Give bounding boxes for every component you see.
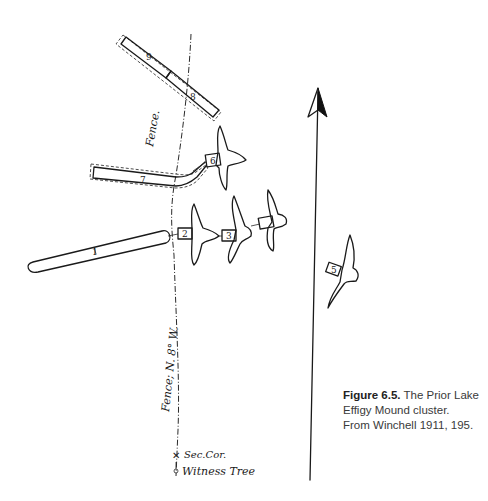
mound-label-7: 7 <box>140 175 146 185</box>
witness-tree-icon <box>174 469 178 473</box>
figure-caption: Figure 6.5. The Prior Lake Effigy Mound … <box>343 388 483 433</box>
section-corner-marker: ✕ Sec.Cor. <box>172 449 226 461</box>
mound-7-linear: 7 <box>90 162 208 188</box>
mound-label-8: 8 <box>190 92 196 102</box>
witness-tree-label: Witness Tree <box>182 465 256 478</box>
mound-label-3: 3 <box>226 231 232 241</box>
fence-label-top: Fence. <box>143 109 162 148</box>
fence-line <box>172 34 191 476</box>
mound-label-5: 5 <box>331 265 337 275</box>
north-arrow-icon <box>308 88 327 480</box>
witness-tree-marker: Witness Tree <box>174 462 256 478</box>
section-corner-label: Sec.Cor. <box>184 449 226 460</box>
caption-figure-number: Figure 6.5. <box>343 389 401 401</box>
section-corner-icon: ✕ <box>172 450 180 461</box>
mound-1-linear: 1 <box>28 231 178 273</box>
mound-label-6: 6 <box>210 156 216 166</box>
mound-label-9: 9 <box>146 52 152 62</box>
mound-4-bird-effigy <box>258 190 286 251</box>
mound-3-bird-effigy: 3 <box>222 196 260 263</box>
mound-2-bird-effigy: 2 <box>178 204 222 265</box>
mound-label-1: 1 <box>92 247 98 257</box>
mound-6-bird-effigy: 6 <box>193 126 246 190</box>
mound-5-bird-effigy: 5 <box>326 235 358 308</box>
caption-source: From Winchell 1911, 195. <box>343 419 473 431</box>
mound-9-8-linear: 9 8 <box>116 35 221 121</box>
fence-bearing-label: Fence; N. 8° W. <box>159 326 181 413</box>
caption-title-1: The Prior Lake <box>404 389 479 401</box>
mound-label-2: 2 <box>182 229 188 239</box>
caption-title-2: Effigy Mound cluster. <box>343 404 450 416</box>
